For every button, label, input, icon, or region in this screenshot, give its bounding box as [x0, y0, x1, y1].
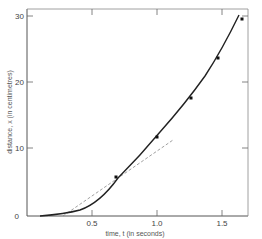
- x-tick-1-0: 1.0: [151, 219, 163, 228]
- y-ticks: [27, 16, 248, 148]
- y-axis-label: distance, x (in centimetres): [6, 70, 14, 154]
- fitted-curve: [40, 15, 239, 216]
- x-tick-0-5: 0.5: [86, 219, 98, 228]
- data-point: [115, 176, 118, 179]
- data-points: [115, 18, 244, 179]
- y-tick-20: 20: [15, 78, 24, 87]
- chart: 0 10 20 30 0.5 1.0 1.5 time, t (in secon…: [0, 0, 262, 239]
- x-ticks: [92, 9, 222, 216]
- data-point: [156, 136, 159, 139]
- y-tick-0: 0: [15, 212, 20, 221]
- data-point: [190, 97, 193, 100]
- data-point: [217, 57, 220, 60]
- data-point: [241, 18, 244, 21]
- y-tick-30: 30: [15, 12, 24, 21]
- x-axis-label: time, t (in seconds): [105, 230, 164, 238]
- y-tick-10: 10: [15, 144, 24, 153]
- x-tick-1-5: 1.5: [216, 219, 228, 228]
